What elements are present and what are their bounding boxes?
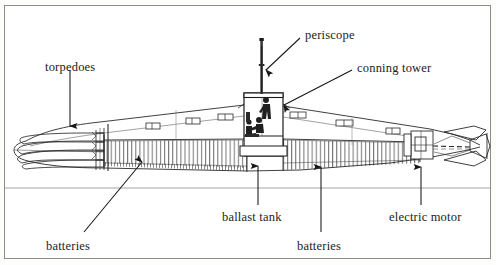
arrow-conning-tower (284, 70, 352, 105)
label-ballast-tank: ballast tank (222, 211, 282, 224)
label-torpedoes: torpedoes (45, 61, 95, 74)
label-conning-tower: conning tower (357, 62, 431, 75)
submarine-diagram-figure: torpedoes periscope conning tower ballas… (0, 0, 496, 265)
drive-shaft (433, 146, 470, 149)
electric-motor-block (404, 131, 433, 159)
label-periscope: periscope (305, 29, 355, 42)
periscope-mast (259, 38, 265, 94)
label-batteries-right: batteries (297, 240, 341, 253)
label-electric-motor: electric motor (389, 211, 462, 224)
conning-tower (238, 93, 290, 156)
arrow-periscope (266, 38, 300, 70)
label-batteries-left: batteries (46, 240, 90, 253)
arrow-batteries-left (84, 162, 142, 232)
submarine-cutaway-drawing (0, 0, 496, 265)
bow-torpedo-tubes (18, 124, 109, 171)
